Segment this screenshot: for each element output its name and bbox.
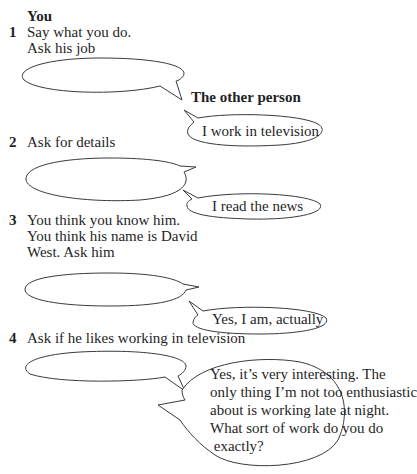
item-4-instruction-line-1: Ask if he likes working in television (27, 330, 245, 346)
reply-1-text: I work in television (202, 123, 319, 140)
reply-4-text-line-3: about is working late at night. (210, 402, 389, 419)
item-3-instruction-line-3: West. Ask him (27, 244, 115, 260)
reply-4-text-line-2: only thing I’m not too enthusiastic (210, 384, 417, 401)
item-1-instruction-line-1: Say what you do. (27, 24, 131, 40)
answer-bubble-2[interactable] (26, 158, 196, 201)
reply-3-text: Yes, I am, actually (212, 311, 323, 328)
item-3-instruction-line-1: You think you know him. (27, 212, 180, 228)
item-3-number: 3 (9, 212, 17, 228)
you-header: You (27, 8, 52, 24)
reply-2-text: I read the news (212, 198, 303, 215)
answer-bubble-3[interactable] (25, 273, 199, 306)
answer-bubble-1[interactable] (22, 58, 184, 100)
item-3-instruction-line-2: You think his name is David (27, 228, 198, 244)
reply-4-text-line-4: What sort of work do you do (210, 420, 383, 437)
reply-4-text-line-5: exactly? (210, 438, 264, 455)
item-1-number: 1 (9, 24, 17, 40)
item-2-number: 2 (9, 134, 17, 150)
answer-bubble-4[interactable] (26, 351, 186, 391)
item-4-number: 4 (9, 330, 17, 346)
item-2-instruction-line-1: Ask for details (27, 134, 115, 150)
item-1-instruction-line-2: Ask his job (27, 40, 95, 56)
reply-4-text-line-1: Yes, it’s very interesting. The (210, 366, 386, 383)
other-person-header: The other person (191, 89, 301, 105)
